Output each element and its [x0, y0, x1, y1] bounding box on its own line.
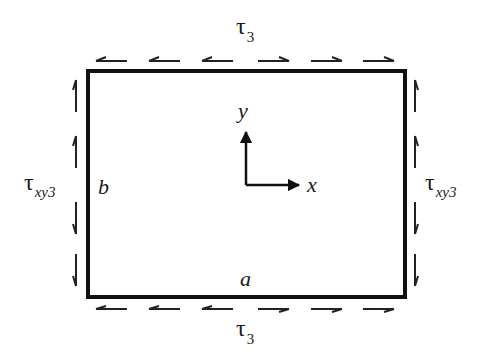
- arrow-right-icon: [311, 57, 342, 61]
- arrow-left-icon: [96, 306, 127, 309]
- left-shear-arrows: [73, 80, 76, 286]
- top-shear-arrows: [96, 57, 394, 61]
- arrow-right-icon: [363, 309, 394, 312]
- arrow-up-icon: [415, 136, 418, 168]
- arrow-up-icon: [73, 80, 76, 112]
- arrow-right-icon: [258, 57, 289, 61]
- side-b-label: b: [98, 176, 109, 198]
- bottom-shear-arrows: [96, 306, 394, 312]
- right-shear-arrows: [415, 80, 418, 286]
- arrow-left-icon: [202, 306, 233, 309]
- arrow-down-icon: [73, 254, 76, 286]
- arrow-right-icon: [258, 309, 289, 312]
- top-stress-label: τ3: [236, 14, 254, 38]
- arrow-up-icon: [73, 136, 76, 168]
- diagram-canvas: [0, 0, 486, 354]
- x-axis-label: x: [307, 174, 317, 196]
- arrow-left-icon: [149, 57, 180, 61]
- y-axis-label: y: [238, 100, 248, 122]
- arrow-down-icon: [415, 254, 418, 286]
- arrow-left-icon: [96, 57, 127, 61]
- side-a-label: a: [240, 268, 251, 290]
- left-stress-label: τxy3: [24, 170, 55, 194]
- arrow-down-icon: [415, 202, 418, 234]
- arrow-left-icon: [202, 57, 233, 61]
- arrow-right-icon: [311, 309, 342, 312]
- arrow-down-icon: [73, 202, 76, 234]
- arrow-right-icon: [363, 57, 394, 61]
- coordinate-axes: [246, 132, 299, 185]
- bottom-stress-label: τ3: [236, 316, 254, 340]
- right-stress-label: τxy3: [425, 170, 456, 194]
- arrow-up-icon: [415, 80, 418, 112]
- arrow-left-icon: [149, 306, 180, 309]
